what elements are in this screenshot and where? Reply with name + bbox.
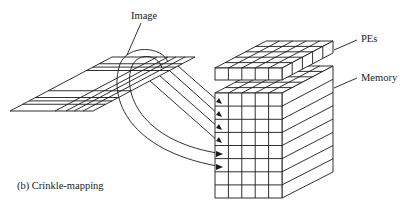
pes-label: PEs bbox=[361, 33, 377, 44]
memory-block bbox=[215, 66, 333, 198]
image-plane bbox=[10, 57, 195, 111]
pes-leader-line bbox=[334, 40, 357, 50]
figure-caption: (b) Crinkle-mapping bbox=[17, 180, 104, 192]
crinkle-mapping-diagram: Image bbox=[0, 0, 407, 210]
image-label: Image bbox=[131, 10, 158, 21]
image-row-lines bbox=[23, 64, 183, 105]
memory-label: Memory bbox=[361, 72, 398, 83]
memory-leader-line bbox=[334, 78, 357, 88]
